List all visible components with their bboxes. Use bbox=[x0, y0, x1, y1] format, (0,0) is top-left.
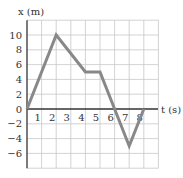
grid-lines bbox=[27, 20, 158, 168]
y-axis-label: x (m) bbox=[18, 6, 44, 17]
y-tick-label: 2 bbox=[16, 89, 22, 100]
x-tick-label: 2 bbox=[49, 112, 55, 123]
x-tick-label: 6 bbox=[107, 112, 113, 123]
position-time-chart: 123456781086420−2−4−6 x (m) t (s) bbox=[0, 0, 183, 178]
x-tick-label: 4 bbox=[78, 112, 84, 123]
x-tick-label: 1 bbox=[34, 112, 40, 123]
y-tick-label: −6 bbox=[7, 148, 22, 159]
y-tick-label: 6 bbox=[16, 59, 22, 70]
y-tick-label: 4 bbox=[16, 74, 22, 85]
x-tick-label: 7 bbox=[122, 112, 128, 123]
y-tick-label: 8 bbox=[16, 44, 22, 55]
x-axis-label: t (s) bbox=[161, 104, 181, 115]
x-tick-label: 5 bbox=[93, 112, 99, 123]
x-tick-label: 3 bbox=[64, 112, 70, 123]
y-tick-label: 0 bbox=[16, 104, 22, 115]
y-tick-label: −2 bbox=[7, 118, 22, 129]
y-tick-label: 10 bbox=[9, 30, 22, 41]
y-tick-label: −4 bbox=[7, 133, 22, 144]
